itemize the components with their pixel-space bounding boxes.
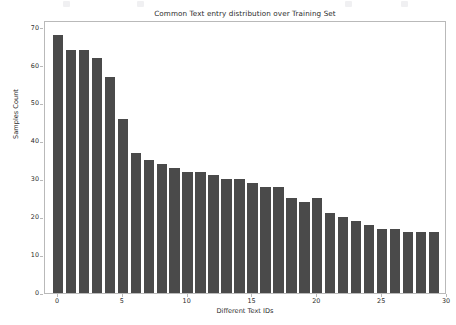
- x-tick-mark: [187, 294, 188, 297]
- y-tick-mark: [40, 218, 43, 219]
- bar: [131, 153, 141, 293]
- y-tick-label: 40: [0, 137, 44, 147]
- bar: [247, 183, 257, 293]
- top-crop-artifacts: [0, 0, 456, 9]
- bar-series: [45, 22, 445, 293]
- bar: [377, 229, 387, 293]
- bar: [312, 198, 322, 293]
- x-tick-label: 20: [304, 297, 328, 305]
- plot-area: [44, 21, 446, 294]
- y-tick-mark: [40, 28, 43, 29]
- bar: [364, 225, 374, 293]
- x-tick-mark: [446, 294, 447, 297]
- y-tick-mark: [40, 180, 43, 181]
- chart-title: Common Text entry distribution over Trai…: [44, 9, 446, 18]
- bar: [66, 50, 76, 293]
- x-tick-label: 30: [434, 297, 456, 305]
- y-tick-mark: [40, 104, 43, 105]
- bar: [182, 172, 192, 293]
- x-tick-label: 5: [110, 297, 134, 305]
- bar: [105, 77, 115, 293]
- x-tick-mark: [316, 294, 317, 297]
- bar: [208, 175, 218, 293]
- bar: [79, 50, 89, 293]
- bar: [429, 232, 439, 293]
- bar: [260, 187, 270, 293]
- bar: [234, 179, 244, 293]
- bar: [273, 187, 283, 293]
- bar: [221, 179, 231, 293]
- bar: [169, 168, 179, 293]
- y-tick-label: 50: [0, 99, 44, 109]
- bar: [416, 232, 426, 293]
- x-tick-label: 10: [175, 297, 199, 305]
- x-axis-label: Different Text IDs: [44, 307, 446, 315]
- y-tick-mark: [40, 256, 43, 257]
- bar: [157, 164, 167, 293]
- bar: [390, 229, 400, 293]
- bar: [299, 202, 309, 293]
- x-tick-label: 15: [239, 297, 263, 305]
- x-tick-mark: [122, 294, 123, 297]
- y-tick-mark: [40, 294, 43, 295]
- y-tick-label: 0: [0, 289, 44, 299]
- y-tick-label: 60: [0, 62, 44, 72]
- x-tick-mark: [57, 294, 58, 297]
- bar: [403, 232, 413, 293]
- bar: [351, 221, 361, 293]
- matplotlib-figure: Common Text entry distribution over Trai…: [0, 0, 456, 325]
- y-tick-label: 30: [0, 175, 44, 185]
- bar: [325, 213, 335, 293]
- y-tick-mark: [40, 66, 43, 67]
- y-tick-label: 20: [0, 213, 44, 223]
- bar: [195, 172, 205, 293]
- x-tick-label: 25: [369, 297, 393, 305]
- bar: [53, 35, 63, 293]
- bar: [338, 217, 348, 293]
- bar: [92, 58, 102, 293]
- y-tick-mark: [40, 142, 43, 143]
- bar: [144, 160, 154, 293]
- y-tick-label: 70: [0, 24, 44, 34]
- y-axis-label: Samples Count: [12, 54, 20, 174]
- bar: [118, 119, 128, 293]
- x-tick-mark: [381, 294, 382, 297]
- bar: [286, 198, 296, 293]
- x-tick-mark: [251, 294, 252, 297]
- y-tick-label: 10: [0, 251, 44, 261]
- x-tick-label: 0: [45, 297, 69, 305]
